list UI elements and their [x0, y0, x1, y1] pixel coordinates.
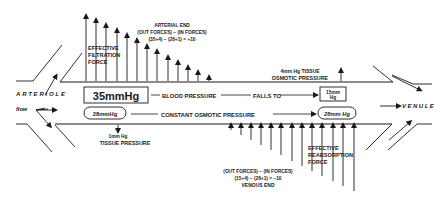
- reabsorption-label-1: EFFECTIVE: [308, 145, 339, 151]
- blood-pressure-start-value: 35mmHg: [93, 90, 139, 102]
- filtration-label-3: FORCE: [88, 59, 108, 65]
- venous-end-formula-1: (OUT FORCES) − (IN FORCES): [223, 169, 293, 174]
- arteriole-walls: [16, 45, 82, 152]
- venous-end-heading: VENOUS END: [241, 182, 274, 188]
- filtration-label-2: FILTRATION: [88, 52, 120, 58]
- tissue-pressure-line-2: TISSUE PRESSURE: [100, 140, 151, 146]
- falls-to-label: FALLS TO: [253, 93, 281, 99]
- capillary-diagram: 35mmHg BLOOD PRESSURE FALLS TO 15mm Hg 2…: [0, 0, 441, 204]
- tissue-osmotic-line-1: 4mm Hg TISSUE: [280, 68, 320, 74]
- arteriole-label: ARTERIOLE: [15, 91, 67, 97]
- arterial-end-heading: ARTERIAL END: [154, 23, 190, 28]
- osmotic-pressure-label: CONSTANT OSMOTIC PRESSURE: [161, 112, 255, 118]
- venous-end-formula-2: (15+4) − (28+1) = −10: [234, 176, 281, 181]
- arteriole-flow-arrows: [36, 76, 56, 126]
- reabsorption-label-2: REABSORPTION: [308, 152, 353, 158]
- tissue-pressure-line-1: 1mm Hg: [109, 134, 128, 139]
- venule-label: VENULE: [402, 103, 435, 109]
- arterial-end-formula-1: (OUT FORCES) − (IN FORCES): [137, 30, 207, 35]
- flow-label: flow: [16, 106, 28, 112]
- reabsorption-label-3: FORCE: [308, 159, 328, 165]
- blood-pressure-label: BLOOD PRESSURE: [162, 93, 217, 99]
- blood-pressure-end-value-2: Hg: [330, 95, 336, 100]
- filtration-label-1: EFFECTIVE: [88, 45, 119, 51]
- blood-pressure-end-value-1: 15mm: [326, 90, 340, 95]
- tissue-osmotic-line-2: OSMOTIC PRESSURE: [272, 75, 329, 81]
- osmotic-pressure-start-value: 28mmHg: [93, 111, 118, 117]
- arterial-end-formula-2: (35+4) − (28+1) = +10: [148, 37, 195, 42]
- osmotic-pressure-end-value: 28mm Hg: [323, 111, 351, 117]
